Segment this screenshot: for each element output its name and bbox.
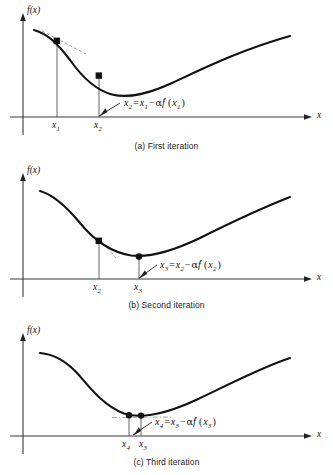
- tick-label-x2: x2: [94, 120, 102, 132]
- annotation-arrow-head: [134, 427, 142, 435]
- function-curve: [40, 353, 290, 416]
- x-axis-label: x: [317, 429, 321, 439]
- panel-c-caption: (c) Third iteration: [0, 457, 333, 467]
- y-axis-arrow: [20, 13, 26, 21]
- annotation-arrow-head: [100, 108, 108, 116]
- marker-x2: [96, 72, 102, 78]
- x-axis-label: x: [317, 110, 321, 120]
- equation-first-iteration: x2=x1−αf′(x1): [124, 97, 186, 110]
- tick-label-x4: x4: [122, 439, 130, 451]
- marker-x2: [96, 238, 102, 244]
- marker-x3: [136, 253, 143, 260]
- y-axis-label: f(x): [27, 5, 40, 15]
- panel-second-iteration: f(x) x x2 x3 x3=x2−αf′(x2) (b) Second it…: [0, 158, 333, 318]
- gradient-descent-figure: f(x) x x1 x2 x2=x1−αf′(x1) (a) First ite…: [0, 0, 333, 475]
- y-axis-arrow: [20, 173, 26, 181]
- panel-c-plot: [0, 318, 333, 475]
- marker-x4: [126, 412, 132, 418]
- tangent-line-x1: [42, 31, 88, 55]
- panel-b-caption: (b) Second iteration: [0, 300, 333, 310]
- tick-label-x2: x2: [93, 282, 101, 294]
- function-curve: [34, 30, 290, 96]
- tick-label-x3: x3: [139, 439, 147, 451]
- panel-third-iteration: f(x) x x4 x3 x4=x3−αf′(x3) (c) Third ite…: [0, 318, 333, 475]
- x-axis-arrow: [304, 433, 312, 439]
- marker-x3: [138, 412, 144, 418]
- x-axis-arrow: [304, 276, 312, 282]
- equation-third-iteration: x4=x3−αf′(x3): [155, 416, 217, 429]
- tick-label-x1: x1: [52, 120, 60, 132]
- marker-x1: [54, 38, 60, 44]
- tick-label-x3: x3: [134, 282, 142, 294]
- panel-a-plot: [0, 0, 333, 158]
- x-axis-label: x: [317, 272, 321, 282]
- equation-second-iteration: x3=x2−αf′(x2): [160, 259, 222, 272]
- y-axis-label: f(x): [27, 165, 40, 175]
- panel-b-plot: [0, 158, 333, 318]
- y-axis-arrow: [20, 333, 26, 341]
- y-axis-label: f(x): [27, 325, 40, 335]
- panel-a-caption: (a) First iteration: [0, 141, 333, 151]
- annotation-arrow-head: [140, 270, 148, 278]
- x-axis-arrow: [304, 114, 312, 120]
- function-curve: [40, 191, 290, 256]
- panel-first-iteration: f(x) x x1 x2 x2=x1−αf′(x1) (a) First ite…: [0, 0, 333, 158]
